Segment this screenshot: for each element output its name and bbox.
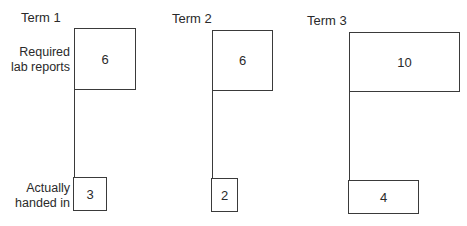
term-2-pole	[212, 90, 213, 179]
term-3-title: Term 3	[307, 13, 347, 28]
required-lab-reports-label: Required lab reports	[6, 45, 70, 75]
handed-in-label-line2: handed in	[4, 196, 70, 211]
term-1-handed-in-box: 3	[73, 177, 107, 211]
required-label-line1: Required	[6, 45, 70, 60]
term-3-pole	[349, 91, 350, 181]
term-1-title: Term 1	[21, 10, 61, 25]
term-1-required-box: 6	[74, 28, 136, 90]
term-3-handed-in-box: 4	[348, 180, 419, 214]
term-2-required-box: 6	[212, 30, 273, 91]
term-3-required-box: 10	[349, 32, 460, 92]
handed-in-label-line1: Actually	[4, 181, 70, 196]
actually-handed-in-label: Actually handed in	[4, 181, 70, 211]
term-2-handed-in-box: 2	[211, 178, 238, 212]
required-label-line2: lab reports	[6, 60, 70, 75]
term-1-pole	[74, 89, 75, 178]
term-2-title: Term 2	[172, 11, 212, 26]
